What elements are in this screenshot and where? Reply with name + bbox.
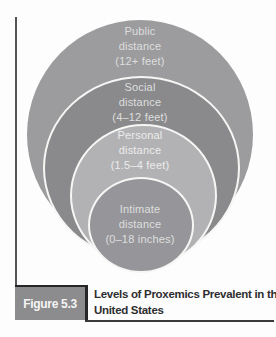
ring-word: distance [40,143,240,158]
ring-word: distance [40,217,240,232]
ring-name: Social [40,80,240,95]
label-intimate-distance: Intimate distance (0–18 inches) [40,202,240,247]
ring-name: Public [40,24,240,39]
figure-title-line-2: United States [94,302,272,318]
ring-word: distance [40,39,240,54]
figure-number-label: Figure 5.3 [23,297,77,311]
label-public-distance: Public distance (12+ feet) [40,24,240,69]
ring-word: distance [40,95,240,110]
figure-bottom-rule [85,320,274,322]
ring-range: (4–12 feet) [40,110,240,125]
label-personal-distance: Personal distance (1.5–4 feet) [40,128,240,173]
label-social-distance: Social distance (4–12 feet) [40,80,240,125]
ring-name: Intimate [40,202,240,217]
ring-range: (1.5–4 feet) [40,158,240,173]
ring-range: (12+ feet) [40,54,240,69]
figure-5-3: Public distance (12+ feet) Social distan… [0,0,276,337]
figure-left-rule [15,17,17,287]
ring-range: (0–18 inches) [40,232,240,247]
figure-title: Levels of Proxemics Prevalent in the Uni… [94,286,272,318]
ring-name: Personal [40,128,240,143]
figure-number-box: Figure 5.3 [15,285,88,320]
figure-title-line-1: Levels of Proxemics Prevalent in the [94,286,272,302]
